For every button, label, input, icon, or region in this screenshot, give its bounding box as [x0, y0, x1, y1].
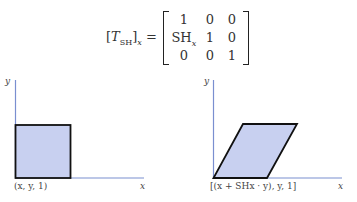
- left-x-axis-label: x: [140, 181, 145, 191]
- shear-diagrams: [0, 0, 357, 202]
- left-figure: [15, 80, 144, 178]
- sheared-parallelogram: [214, 124, 298, 178]
- right-x-axis-label: x: [338, 181, 343, 191]
- right-figure: [213, 80, 342, 178]
- original-square: [16, 125, 71, 178]
- right-point-label: [(x + SHx · y), y, 1]: [210, 181, 296, 191]
- right-y-axis-label: y: [204, 76, 209, 86]
- left-y-axis-label: y: [5, 76, 10, 86]
- left-point-label: (x, y, 1): [14, 181, 47, 191]
